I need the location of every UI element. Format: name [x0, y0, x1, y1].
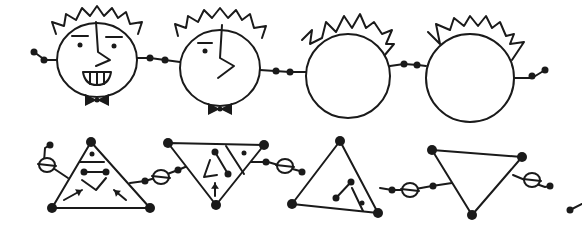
face-3-blank — [302, 14, 394, 118]
dumbbell-end — [225, 171, 232, 178]
inner-dot — [242, 151, 247, 156]
bead-dot-icon — [287, 69, 294, 76]
face-circle — [180, 30, 260, 106]
dumbbell-end — [103, 169, 110, 176]
dumbbell-end — [81, 169, 88, 176]
bead-dot-icon — [47, 142, 54, 149]
eye-dot — [78, 43, 83, 48]
face-1-smiling — [52, 6, 142, 106]
bead-dot-icon — [263, 159, 270, 166]
vertex-dot — [335, 136, 345, 146]
bead-dot-icon — [529, 73, 536, 80]
bead-dot-icon — [389, 187, 396, 194]
triangle-2-inverted — [163, 138, 269, 210]
bead-dot-icon — [401, 61, 408, 68]
vertex-dot — [86, 137, 96, 147]
vertex-dot — [517, 152, 527, 162]
vertex-dot — [47, 203, 57, 213]
bead-dot-icon — [162, 57, 169, 64]
bead-dot-icon — [142, 178, 149, 185]
bead-dot-icon — [273, 68, 280, 75]
eye-dot — [112, 44, 117, 49]
bead-dot-icon — [547, 183, 554, 190]
vertex-dot — [467, 210, 477, 220]
bead-dot-icon — [41, 57, 48, 64]
vertex-dot — [145, 203, 155, 213]
face-4-blank — [426, 16, 524, 122]
triangle-outline — [292, 141, 378, 213]
bead-dot-icon — [147, 55, 154, 62]
bowtie-knot — [95, 98, 100, 103]
connector-line — [390, 64, 426, 66]
vertex-dot — [211, 200, 221, 210]
doodle-canvas — [0, 0, 582, 227]
vertex-dot — [163, 138, 173, 148]
connector-line — [260, 70, 306, 72]
bead-dot-icon — [567, 207, 574, 214]
dumbbell-end — [348, 179, 355, 186]
dumbbell-end — [212, 149, 219, 156]
inner-dot — [90, 152, 95, 157]
connector-line — [137, 58, 180, 62]
triangle-3-split — [287, 136, 383, 218]
bead-dot-icon — [542, 67, 549, 74]
bead-dot-icon — [430, 183, 437, 190]
bead-dot-icon — [414, 62, 421, 69]
vertex-dot — [259, 140, 269, 150]
bead-dot-icon — [31, 49, 38, 56]
bead-dot-icon — [299, 169, 306, 176]
vertex-dot — [287, 199, 297, 209]
triangle-4-empty — [427, 145, 527, 220]
face-2-profile — [175, 8, 266, 115]
inner-dot — [360, 201, 365, 206]
doodle-illustration — [0, 0, 582, 227]
bead-dot-icon — [175, 167, 182, 174]
vertex-dot — [373, 208, 383, 218]
dumbbell-end — [333, 195, 340, 202]
face-circle — [426, 34, 514, 122]
face-circle — [306, 34, 390, 118]
bowtie-knot — [218, 107, 223, 112]
eye-dot — [203, 49, 208, 54]
triangle-outline — [432, 150, 522, 215]
vertex-dot — [427, 145, 437, 155]
